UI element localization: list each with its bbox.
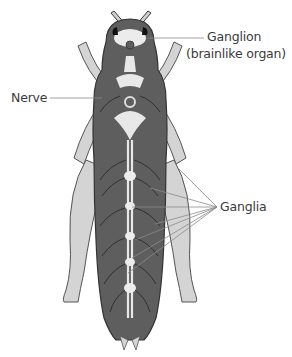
diagram: Ganglion (brainlike organ) Nerve Ganglia <box>0 0 292 357</box>
ganglion-label-sub: (brainlike organ) <box>186 47 286 61</box>
ganglia-label: Ganglia <box>220 200 266 214</box>
nerve-label: Nerve <box>11 91 47 105</box>
ganglion-label: Ganglion <box>207 30 261 44</box>
